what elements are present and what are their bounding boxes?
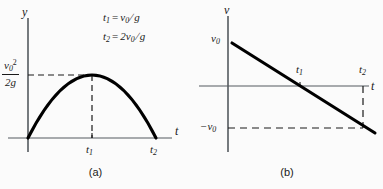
panel-b-intercept-label-subscript: 0 xyxy=(216,37,220,46)
panel-b-velocity-vs-time: v t v0 −v0 t1 t2 (b) xyxy=(191,0,383,189)
equation-t1: t1=v0/g xyxy=(103,11,145,25)
equation-block: t1=v0/g t2=2v0/g xyxy=(103,11,145,49)
panel-b-tick-label-t1-subscript: 1 xyxy=(299,68,303,77)
panel-a-caption: (a) xyxy=(0,166,191,178)
panel-a-tick-label-t1: t1 xyxy=(86,144,93,157)
panel-b-plot xyxy=(191,0,383,165)
panel-a-tick-label-t1-subscript: 1 xyxy=(89,148,93,157)
panel-a-peak-numerator-exponent: 2 xyxy=(13,58,17,67)
equation-t2-operator: = xyxy=(110,30,120,42)
equation-t1-operator: = xyxy=(110,11,120,23)
panel-a-y-axis-label: y xyxy=(22,6,27,18)
panel-a-position-vs-time: y t v02 2g t1 t2 t1=v0/g t2=2v0/g (a) xyxy=(0,0,191,189)
panel-b-tick-label-t2-subscript: 2 xyxy=(362,68,366,77)
panel-a-tick-label-t2: t2 xyxy=(150,144,157,157)
panel-b-t-axis-label: t xyxy=(371,80,374,92)
physics-figure-projectile-graphs: y t v02 2g t1 t2 t1=v0/g t2=2v0/g (a) xyxy=(0,0,383,189)
panel-a-peak-denominator: 2g xyxy=(2,75,19,88)
equation-t2: t2=2v0/g xyxy=(103,30,145,44)
panel-a-tick-label-t2-subscript: 2 xyxy=(153,148,157,157)
panel-b-tick-label-t2: t2 xyxy=(359,64,366,77)
panel-b-caption: (b) xyxy=(191,166,383,178)
panel-b-negative-intercept-label: −v0 xyxy=(200,121,216,134)
panel-b-velocity-line xyxy=(232,43,375,133)
panel-b-v-axis-label: v xyxy=(224,4,229,16)
panel-b-tick-label-t1: t1 xyxy=(296,64,303,77)
panel-a-peak-value-label: v02 2g xyxy=(2,58,19,88)
panel-a-plot xyxy=(0,0,191,165)
panel-b-intercept-label-v0: v0 xyxy=(211,33,220,46)
panel-a-t-axis-label: t xyxy=(175,125,178,137)
panel-b-negative-intercept-subscript: 0 xyxy=(212,125,216,134)
panel-a-peak-numerator: v02 xyxy=(2,58,19,75)
